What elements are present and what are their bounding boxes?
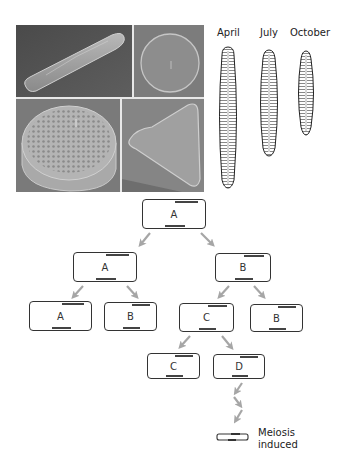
division-arrows — [0, 0, 344, 463]
